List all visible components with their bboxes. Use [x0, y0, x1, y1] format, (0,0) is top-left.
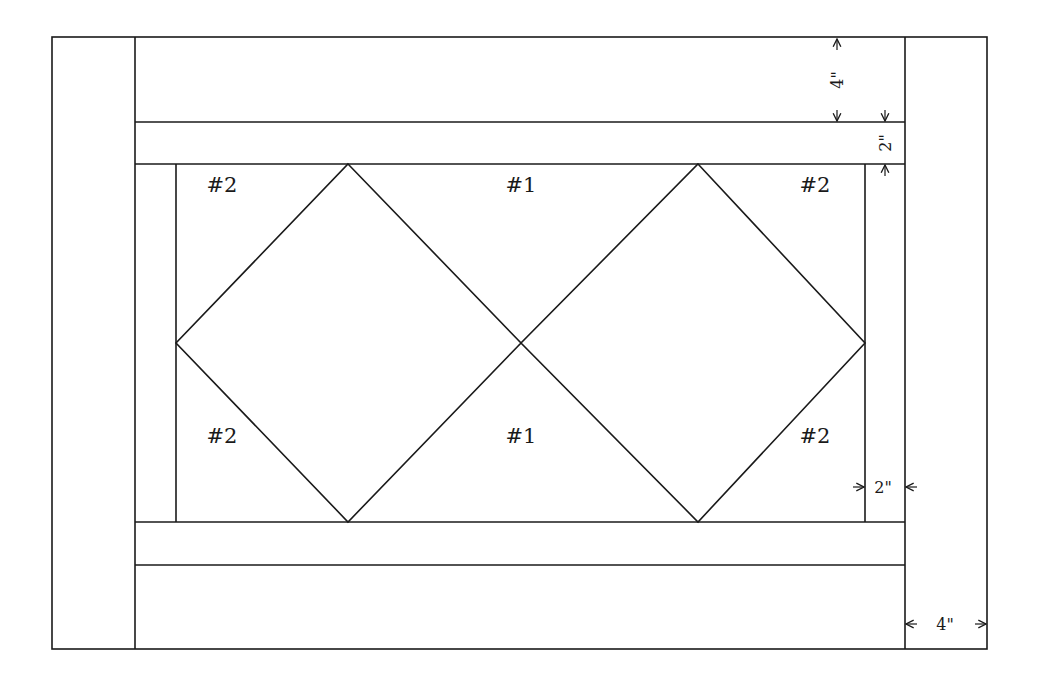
dim-label-top-border: 4": [828, 71, 847, 89]
piece-label-bottom-left: #2: [207, 424, 238, 448]
left-diamond: [176, 164, 521, 522]
piece-label-top-left: #2: [207, 173, 238, 197]
piece-label-top-center: #1: [506, 173, 537, 197]
piece-label-bottom-right: #2: [800, 424, 831, 448]
right-diamond: [521, 164, 865, 522]
dim-label-right-strip: 2": [874, 478, 892, 497]
outer-frame: [52, 37, 987, 649]
dim-label-top-strip: 2": [876, 134, 895, 152]
piece-label-bottom-center: #1: [506, 424, 537, 448]
quilt-diagram: #2 #1 #2 #2 #1 #2 4" 2" 2" 4": [0, 0, 1037, 688]
dim-label-right-border: 4": [936, 615, 954, 634]
piece-label-top-right: #2: [800, 173, 831, 197]
